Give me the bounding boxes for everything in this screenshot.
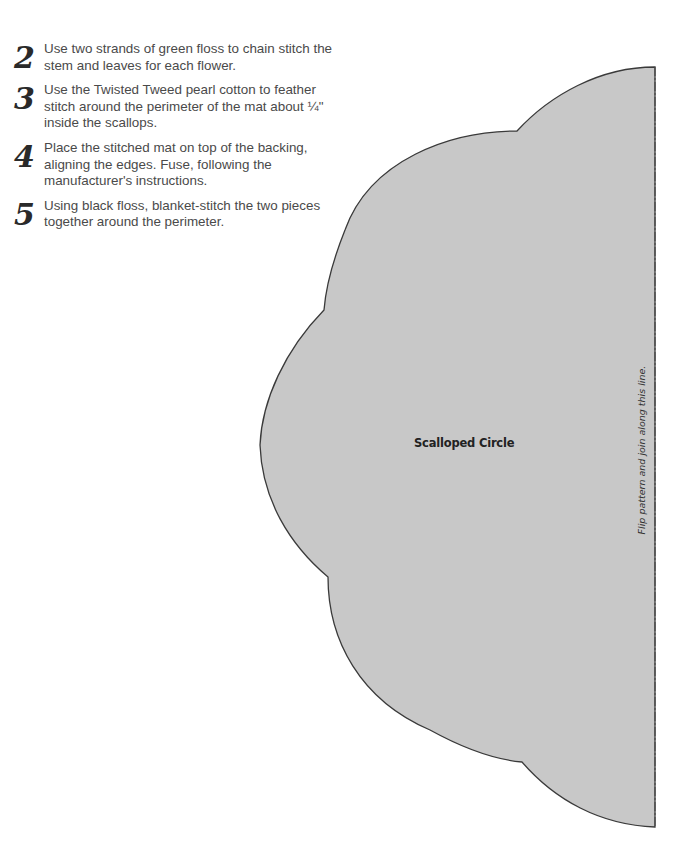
pattern-label: Scalloped Circle: [414, 436, 514, 450]
fold-note: Flip pattern and join along this line.: [636, 366, 647, 535]
scalloped-circle-pattern: [0, 0, 682, 849]
